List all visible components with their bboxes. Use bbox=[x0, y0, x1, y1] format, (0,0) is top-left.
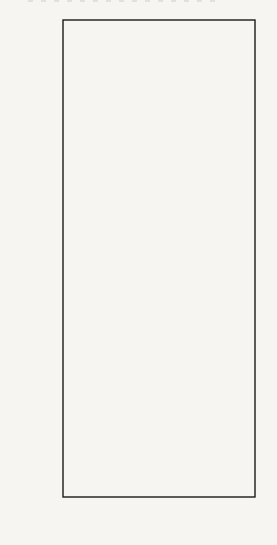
chart-canvas bbox=[0, 0, 277, 545]
plot-border bbox=[63, 20, 255, 497]
figure-plot bbox=[0, 0, 277, 545]
